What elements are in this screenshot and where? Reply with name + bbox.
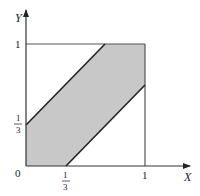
shaded-region xyxy=(26,44,145,166)
x-tick-one-third-num: 1 xyxy=(63,170,68,180)
y-tick-one-third-num: 1 xyxy=(16,113,21,123)
y-tick-one: 1 xyxy=(15,38,21,50)
x-tick-one: 1 xyxy=(142,169,148,181)
joint-region-diagram: Y X 0 1 1 3 1 3 1 xyxy=(0,0,200,196)
diagram-canvas: Y X 0 1 1 3 1 3 1 xyxy=(0,0,200,196)
y-axis-label: Y xyxy=(15,11,23,25)
origin-label: 0 xyxy=(15,167,21,179)
y-tick-one-third-den: 3 xyxy=(16,125,21,135)
x-tick-one-third-den: 3 xyxy=(63,182,68,192)
x-axis-label: X xyxy=(183,170,192,184)
